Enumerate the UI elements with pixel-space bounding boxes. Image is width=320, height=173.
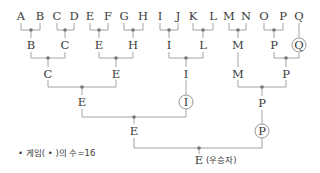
winner-label: M xyxy=(232,38,244,52)
winner-label-circled: P xyxy=(258,124,266,138)
winner-label: B xyxy=(27,38,35,52)
final-bracket xyxy=(134,138,262,154)
winner-label: P xyxy=(258,96,266,110)
winner-label: E xyxy=(95,38,103,52)
champion: E (우승자) xyxy=(195,153,237,167)
player-label: J xyxy=(175,9,181,23)
player-labels: A B C D E F G H I J K L M N O P Q xyxy=(16,9,304,23)
winner-label: M xyxy=(232,67,244,81)
player-label: N xyxy=(241,9,251,23)
game-count-note: • 게임( • )의 수=16 xyxy=(18,148,95,158)
player-label: P xyxy=(279,9,287,23)
round-2-winners: C E I M P xyxy=(44,67,291,81)
round-3-winners: E I P xyxy=(78,95,266,110)
winner-label: C xyxy=(44,67,53,81)
winner-label: E xyxy=(78,95,86,109)
player-label: H xyxy=(138,9,148,23)
winner-label-circled: Q xyxy=(294,38,303,52)
winner-label: I xyxy=(184,67,189,81)
winner-label: E xyxy=(130,124,138,138)
player-label: F xyxy=(104,9,112,23)
player-label: K xyxy=(189,9,198,23)
tournament-bracket: A B C D E F G H I J K L M N O P Q B C E … xyxy=(0,0,320,173)
player-label: I xyxy=(158,9,163,23)
champion-suffix: (우승자) xyxy=(206,155,237,165)
winner-label: E xyxy=(112,67,120,81)
winner-label-circled: I xyxy=(184,95,189,109)
winner-label: L xyxy=(199,38,207,52)
player-label: E xyxy=(86,9,94,23)
round-2-brackets xyxy=(31,52,299,67)
winner-label: C xyxy=(61,38,70,52)
player-label: L xyxy=(209,9,217,23)
player-label: C xyxy=(53,9,62,23)
player-label: B xyxy=(36,9,44,23)
player-label: D xyxy=(69,9,78,23)
champion-label: E xyxy=(195,153,203,167)
round-1-brackets xyxy=(21,23,299,38)
player-label: M xyxy=(223,9,235,23)
player-label: Q xyxy=(294,9,303,23)
winner-label: P xyxy=(270,38,278,52)
round-1-winners: B C E H I L M P Q xyxy=(27,38,304,52)
winner-label: P xyxy=(282,67,290,81)
player-label: G xyxy=(119,9,128,23)
player-label: O xyxy=(259,9,268,23)
winner-label: I xyxy=(167,38,172,52)
round-4-brackets xyxy=(82,109,262,124)
player-label: A xyxy=(16,9,26,23)
round-3-brackets xyxy=(48,80,286,96)
winner-label: H xyxy=(128,38,138,52)
round-4-winners: E P xyxy=(130,124,266,138)
